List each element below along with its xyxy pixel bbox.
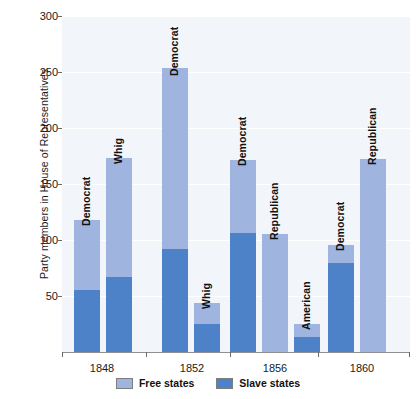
bar-1852-whig[interactable]	[194, 303, 220, 352]
bar-label-1856-republican: Republican	[268, 182, 280, 240]
legend-label-free-states: Free states	[139, 377, 194, 389]
y-tick-mark-50	[58, 296, 62, 297]
x-tick-label-1860: 1860	[350, 362, 374, 374]
bar-label-1848-whig: Whig	[112, 138, 124, 164]
bar-1860-republican[interactable]	[360, 159, 386, 352]
x-tick-mark-start	[62, 352, 63, 357]
x-tick-label-1856: 1856	[263, 362, 287, 374]
y-tick-label-300: 300	[24, 10, 58, 22]
bar-1856-republican[interactable]	[262, 234, 288, 352]
bar-segment-slave	[328, 263, 354, 352]
x-tick-mark-2	[230, 352, 231, 357]
bar-label-1860-republican: Republican	[366, 107, 378, 165]
gridline-250	[62, 72, 410, 73]
x-tick-label-1848: 1848	[90, 362, 114, 374]
y-tick-label-200: 200	[24, 122, 58, 134]
x-tick-label-1852: 1852	[180, 362, 204, 374]
bar-label-1856-american: American	[300, 281, 312, 330]
bar-segment-slave	[230, 233, 256, 352]
legend-swatch-free-states	[116, 378, 133, 389]
y-tick-mark-300	[58, 16, 62, 17]
x-tick-mark-3	[318, 352, 319, 357]
y-tick-mark-250	[58, 72, 62, 73]
bar-label-1852-democrat: Democrat	[168, 27, 180, 76]
x-axis-line	[62, 352, 410, 353]
bar-segment-free	[360, 159, 386, 352]
y-tick-mark-100	[58, 240, 62, 241]
y-tick-mark-200	[58, 128, 62, 129]
bar-segment-slave	[74, 290, 100, 352]
chart-legend: Free states Slave states	[0, 377, 416, 389]
bar-segment-free	[162, 68, 188, 249]
bar-segment-slave	[194, 324, 220, 352]
bar-1852-democrat[interactable]	[162, 68, 188, 352]
bar-segment-slave	[294, 337, 320, 352]
bar-segment-free	[262, 234, 288, 352]
bar-label-1860-democrat: Democrat	[334, 202, 346, 251]
legend-swatch-slave-states	[216, 378, 233, 389]
x-tick-mark-end	[409, 352, 410, 357]
bar-1848-whig[interactable]	[106, 158, 132, 352]
y-tick-label-150: 150	[24, 178, 58, 190]
x-tick-mark-1	[146, 352, 147, 357]
bar-label-1856-democrat: Democrat	[236, 117, 248, 166]
bar-1860-democrat[interactable]	[328, 245, 354, 352]
legend-item-free-states[interactable]: Free states	[116, 377, 194, 389]
gridline-300	[62, 16, 410, 17]
y-tick-label-50: 50	[24, 290, 58, 302]
y-tick-mark-150	[58, 184, 62, 185]
legend-label-slave-states: Slave states	[239, 377, 300, 389]
legend-item-slave-states[interactable]: Slave states	[216, 377, 300, 389]
y-axis-ticks: 300 250 200 150 100 50	[20, 0, 58, 399]
bar-segment-free	[230, 160, 256, 233]
bar-segment-slave	[162, 249, 188, 352]
bar-segment-free	[106, 158, 132, 277]
y-tick-label-250: 250	[24, 66, 58, 78]
bar-segment-slave	[106, 277, 132, 352]
y-tick-label-100: 100	[24, 234, 58, 246]
bar-chart: Party members in House of Representative…	[0, 0, 416, 399]
bar-label-1848-democrat: Democrat	[80, 177, 92, 226]
bar-label-1852-whig: Whig	[200, 283, 212, 309]
bar-1848-democrat[interactable]	[74, 220, 100, 352]
bar-1856-democrat[interactable]	[230, 160, 256, 352]
bar-segment-free	[74, 220, 100, 290]
plot-area: Democrat Whig Democrat Whig Democrat Rep…	[62, 16, 410, 352]
